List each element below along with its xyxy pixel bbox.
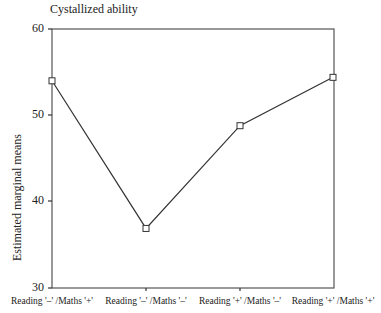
plot-area [0,0,381,313]
data-point-marker [49,78,55,84]
data-series [49,74,336,231]
data-point-marker [237,123,243,129]
series-line [52,77,333,228]
data-point-marker [143,225,149,231]
plot-frame [52,29,334,288]
data-point-marker [330,74,336,80]
